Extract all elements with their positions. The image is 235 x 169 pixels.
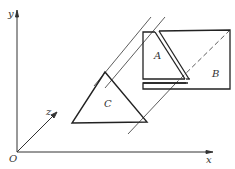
projection-line-3 (128, 84, 175, 134)
label-b: B (211, 68, 219, 79)
projection-diagram: y x z O A B C (0, 0, 235, 169)
label-a: A (153, 50, 161, 61)
label-origin: O (9, 153, 17, 164)
y-axis-arrow-icon (16, 10, 19, 17)
label-y: y (7, 8, 14, 19)
shape-a-diagonal-inner (159, 31, 189, 79)
shape-a (143, 31, 189, 79)
label-z: z (45, 106, 52, 117)
axes (16, 10, 214, 154)
projection-lines (94, 17, 230, 134)
label-x: x (206, 154, 212, 165)
label-c: C (104, 98, 112, 109)
z-axis (17, 114, 55, 152)
